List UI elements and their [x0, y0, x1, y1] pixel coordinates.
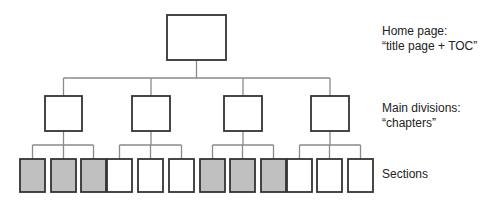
- chapters-label-line2: “chapters”: [382, 116, 461, 131]
- sections-label-line1: Sections: [382, 167, 428, 182]
- section-node: [169, 159, 194, 192]
- home-label-line2: “title page + TOC”: [382, 39, 477, 54]
- section-node-shaded: [51, 159, 76, 192]
- section-node-shaded: [20, 159, 45, 192]
- chapter-node: [132, 96, 170, 131]
- home-label-line1: Home page:: [382, 24, 477, 39]
- sections-level-label: Sections: [382, 167, 428, 182]
- home-page-node: [167, 15, 226, 60]
- chapter-node: [45, 96, 82, 131]
- section-node-shaded: [200, 159, 225, 192]
- chapters-level-label: Main divisions: “chapters”: [382, 101, 461, 131]
- section-node: [287, 159, 312, 192]
- section-node-shaded: [81, 159, 106, 192]
- chapter-node: [311, 96, 349, 131]
- section-node: [138, 159, 163, 192]
- chapters-label-line1: Main divisions:: [382, 101, 461, 116]
- section-node-shaded: [261, 159, 286, 192]
- section-node: [348, 159, 373, 192]
- section-node: [317, 159, 342, 192]
- section-node: [107, 159, 132, 192]
- chapter-node: [224, 96, 262, 131]
- section-node-shaded: [230, 159, 255, 192]
- home-level-label: Home page: “title page + TOC”: [382, 24, 477, 54]
